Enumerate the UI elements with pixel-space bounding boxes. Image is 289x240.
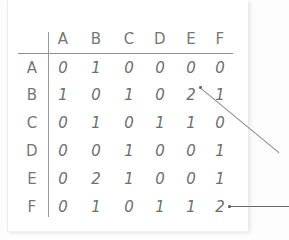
cell-e-f: 1 <box>209 172 231 187</box>
cell-a-b: 1 <box>85 61 107 76</box>
cell-f-c: 0 <box>118 200 140 215</box>
cell-c-a: 0 <box>52 116 74 131</box>
row-header-a: A <box>21 61 43 76</box>
row-header-e: E <box>21 172 43 187</box>
cell-d-d: 0 <box>149 144 171 159</box>
cell-e-a: 0 <box>52 172 74 187</box>
table-horizontal-rule <box>18 53 233 54</box>
row-header-c: C <box>21 116 43 131</box>
cell-b-a: 1 <box>52 88 74 103</box>
row-header-d: D <box>21 144 43 159</box>
cell-d-f: 1 <box>209 144 231 159</box>
cell-c-b: 1 <box>85 116 107 131</box>
cell-d-b: 0 <box>85 144 107 159</box>
cell-a-d: 0 <box>149 61 171 76</box>
cell-d-c: 1 <box>118 144 140 159</box>
callout-leader-horizontal <box>229 206 289 207</box>
screenshot-canvas: A B C D E F A 0 1 0 0 0 0 B 1 0 1 0 2 1 … <box>0 0 289 240</box>
column-header-a: A <box>52 32 74 47</box>
cell-a-a: 0 <box>52 61 74 76</box>
cell-a-e: 0 <box>180 61 202 76</box>
cell-e-d: 0 <box>149 172 171 187</box>
cell-f-e: 1 <box>180 200 202 215</box>
column-header-c: C <box>118 32 140 47</box>
row-header-f: F <box>21 200 43 215</box>
cell-c-e: 1 <box>180 116 202 131</box>
row-header-b: B <box>21 88 43 103</box>
cell-c-f: 0 <box>209 116 231 131</box>
column-header-d: D <box>149 32 171 47</box>
cell-f-d: 1 <box>149 200 171 215</box>
cell-b-c: 1 <box>118 88 140 103</box>
column-header-b: B <box>85 32 107 47</box>
cell-e-e: 0 <box>180 172 202 187</box>
cell-b-f: 1 <box>209 88 231 103</box>
cell-f-a: 0 <box>52 200 74 215</box>
cell-b-d: 0 <box>149 88 171 103</box>
cell-d-a: 0 <box>52 144 74 159</box>
cell-e-b: 2 <box>85 172 107 187</box>
column-header-f: F <box>209 32 231 47</box>
cell-f-b: 1 <box>85 200 107 215</box>
cell-a-c: 0 <box>118 61 140 76</box>
cell-e-c: 1 <box>118 172 140 187</box>
adjacency-matrix-table: A B C D E F A 0 1 0 0 0 0 B 1 0 1 0 2 1 … <box>0 0 289 240</box>
cell-b-b: 0 <box>85 88 107 103</box>
cell-c-d: 1 <box>149 116 171 131</box>
column-header-e: E <box>180 32 202 47</box>
cell-a-f: 0 <box>209 61 231 76</box>
cell-d-e: 0 <box>180 144 202 159</box>
table-vertical-rule <box>48 32 49 217</box>
cell-c-c: 0 <box>118 116 140 131</box>
cell-b-e: 2 <box>180 88 202 103</box>
